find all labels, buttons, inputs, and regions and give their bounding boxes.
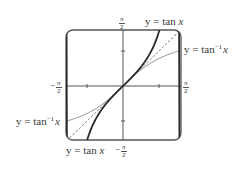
tan-label-top: y = tan x [145, 16, 183, 27]
x-min-label: π 2 [56, 80, 62, 95]
label-var: x [55, 115, 60, 127]
arctan-label-left: y = tan−1 x [16, 116, 60, 127]
tan-label-bottom: y = tan x [66, 145, 104, 156]
label-text: y = tan [145, 15, 178, 27]
pi-denominator: 2 [120, 24, 124, 31]
pi-denominator: 2 [122, 152, 126, 159]
label-var: x [99, 144, 104, 156]
y-min-minus: − [115, 144, 120, 154]
label-var: x [223, 43, 228, 55]
label-var: x [178, 15, 183, 27]
arctan-label-right: y = tan−1 x [184, 44, 228, 55]
pi-denominator: 2 [184, 88, 188, 95]
y-max-label: π 2 [119, 16, 125, 31]
label-sup: −1 [215, 43, 222, 51]
label-sup: −1 [47, 115, 54, 123]
x-max-label: π 2 [183, 80, 189, 95]
label-text: y = tan [16, 115, 47, 127]
y-min-label: π 2 [121, 144, 127, 159]
pi-denominator: 2 [57, 88, 61, 95]
label-text: y = tan [66, 144, 99, 156]
x-min-minus: − [50, 80, 55, 90]
label-text: y = tan [184, 43, 215, 55]
